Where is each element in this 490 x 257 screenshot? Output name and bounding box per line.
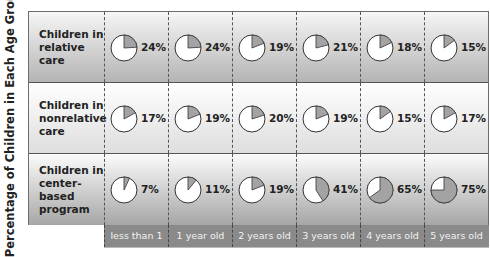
x-category-label: 3 years old xyxy=(296,225,360,247)
percentage-label: 20% xyxy=(269,112,294,124)
percentage-label: 17% xyxy=(461,112,486,124)
pie-chart-icon xyxy=(301,175,331,205)
y-axis-label-text: Percentage of Children in Each Age Group… xyxy=(3,0,17,257)
percentage-label: 19% xyxy=(269,41,294,53)
percentage-label: 18% xyxy=(397,41,422,53)
pie-chart-icon xyxy=(429,33,459,63)
pie-cell: 19% xyxy=(232,154,296,225)
pie-chart-icon xyxy=(365,175,395,205)
pie-chart-icon xyxy=(109,104,139,134)
pie-cell: 41% xyxy=(296,154,360,225)
pie-chart-icon xyxy=(365,104,395,134)
row-label-line: Children in xyxy=(39,99,107,112)
row-label-line: program xyxy=(39,203,105,216)
percentage-label: 41% xyxy=(333,183,358,195)
row-label-line: care xyxy=(39,125,107,138)
row-label-line: relative care xyxy=(39,41,105,67)
pie-chart-icon xyxy=(109,175,139,205)
pie-cell: 19% xyxy=(296,83,360,153)
row-label: Children inrelative care xyxy=(29,12,105,82)
pie-cell: 19% xyxy=(232,12,296,82)
row-label-line: nonrelative xyxy=(39,112,107,125)
percentage-label: 75% xyxy=(461,183,486,195)
percentage-label: 11% xyxy=(205,183,230,195)
percentage-label: 21% xyxy=(333,41,358,53)
x-category-label: 2 years old xyxy=(232,225,296,247)
row-label-line: Children in xyxy=(39,28,105,41)
pie-cell: 24% xyxy=(104,12,168,82)
percentage-label: 17% xyxy=(141,112,166,124)
percentage-label: 24% xyxy=(141,41,166,53)
row-label-line: Children in xyxy=(39,164,105,177)
row-center-based-program: Children incenter-basedprogram7%11%19%41… xyxy=(29,154,488,225)
x-category-label: less than 1 xyxy=(104,225,168,247)
pie-cell: 17% xyxy=(104,83,168,153)
percentage-label: 19% xyxy=(205,112,230,124)
percentage-label: 19% xyxy=(269,183,294,195)
pie-chart-icon xyxy=(429,104,459,134)
percentage-label: 15% xyxy=(397,112,422,124)
pie-chart-icon xyxy=(173,33,203,63)
pie-chart-icon xyxy=(301,104,331,134)
pie-cell: 75% xyxy=(424,154,488,225)
pie-cell: 19% xyxy=(168,83,232,153)
pie-chart-icon xyxy=(365,33,395,63)
pie-cell: 7% xyxy=(104,154,168,225)
pie-chart-icon xyxy=(301,33,331,63)
pie-cell: 20% xyxy=(232,83,296,153)
pie-cell: 11% xyxy=(168,154,232,225)
row-label: Children incenter-basedprogram xyxy=(29,154,105,225)
percentage-label: 19% xyxy=(333,112,358,124)
percentage-label: 15% xyxy=(461,41,486,53)
pie-cell: 17% xyxy=(424,83,488,153)
row-label-line: center-based xyxy=(39,177,105,203)
y-axis-label: Percentage of Children in Each Age Group… xyxy=(2,11,18,225)
pie-cell: 15% xyxy=(360,83,424,153)
x-category-label: 1 year old xyxy=(168,225,232,247)
pie-chart-icon xyxy=(237,175,267,205)
pie-chart-icon xyxy=(173,175,203,205)
x-category-label: 4 years old xyxy=(360,225,424,247)
percentage-label: 65% xyxy=(397,183,422,195)
pie-cell: 65% xyxy=(360,154,424,225)
row-label: Children innonrelativecare xyxy=(29,83,105,153)
pie-cell: 21% xyxy=(296,12,360,82)
percentage-label: 24% xyxy=(205,41,230,53)
x-category-label: 5 years old xyxy=(424,225,488,247)
pie-chart-icon xyxy=(109,33,139,63)
x-axis-category-bar: less than 11 year old2 years old3 years … xyxy=(104,225,489,248)
pie-cell: 18% xyxy=(360,12,424,82)
percentage-label: 7% xyxy=(141,183,159,195)
row-relative-care: Children inrelative care24%24%19%21%18%1… xyxy=(29,12,488,83)
pie-cell: 24% xyxy=(168,12,232,82)
row-nonrelative-care: Children innonrelativecare17%19%20%19%15… xyxy=(29,83,488,154)
pie-chart-icon xyxy=(429,175,459,205)
pie-chart-icon xyxy=(173,104,203,134)
pie-grid: Children inrelative care24%24%19%21%18%1… xyxy=(28,11,489,225)
pie-chart-icon xyxy=(237,104,267,134)
pie-cell: 15% xyxy=(424,12,488,82)
pie-chart-icon xyxy=(237,33,267,63)
